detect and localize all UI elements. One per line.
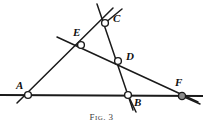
point-marker-C[interactable] [102, 20, 109, 27]
point-label-E: E [73, 27, 80, 38]
point-marker-A[interactable] [25, 92, 32, 99]
point-marker-E[interactable] [78, 42, 85, 49]
figure-container: A B C D E F FIG. 3 [0, 0, 203, 132]
point-label-C: C [113, 13, 120, 24]
caption-number: 3 [109, 112, 114, 122]
point-label-D: D [126, 51, 134, 62]
point-label-B: B [134, 97, 141, 108]
figure-caption: FIG. 3 [0, 112, 203, 122]
point-marker-F[interactable] [178, 92, 185, 99]
point-label-A: A [16, 80, 23, 91]
point-label-F: F [175, 77, 182, 88]
caption-small-caps: IG [95, 114, 103, 122]
point-marker-D[interactable] [115, 58, 122, 65]
point-marker-B[interactable] [125, 92, 132, 99]
